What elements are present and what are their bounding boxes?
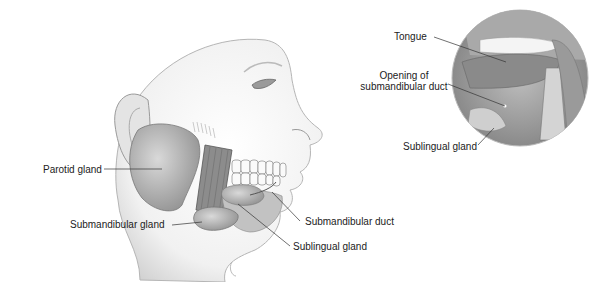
anatomy-illustration: [0, 0, 608, 282]
label-tongue: Tongue: [394, 31, 427, 42]
label-submandibular-duct: Submandibular duct: [305, 216, 394, 227]
label-opening-line1: Opening of: [358, 70, 450, 81]
sublingual-gland-shape: [222, 185, 264, 206]
inset-floor-of-mouth: [452, 4, 590, 146]
label-opening-of-duct: Opening of submandibular duct: [358, 70, 450, 92]
label-submandibular-gland: Submandibular gland: [70, 219, 165, 230]
label-inset-sublingual-gland: Sublingual gland: [403, 141, 477, 152]
label-sublingual-gland: Sublingual gland: [293, 241, 367, 252]
label-parotid-gland: Parotid gland: [43, 164, 102, 175]
label-opening-line2: submandibular duct: [358, 81, 450, 92]
